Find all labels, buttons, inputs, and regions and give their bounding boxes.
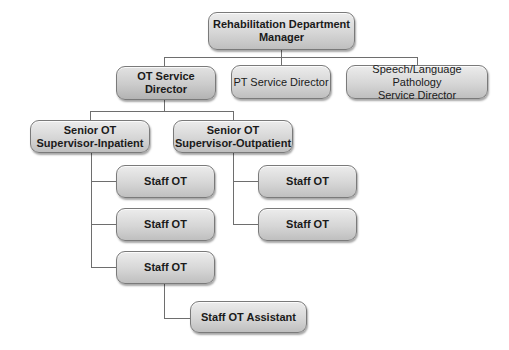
connector-outpatient-trunk bbox=[233, 153, 234, 225]
node-label: PT Service Director bbox=[233, 76, 328, 89]
node-staff-ot-inpatient-2: Staff OT bbox=[116, 208, 215, 241]
node-label: Staff OT bbox=[144, 175, 187, 188]
connector-to-staff-in-1 bbox=[91, 181, 116, 182]
node-rehab-manager: Rehabilitation Department Manager bbox=[208, 12, 355, 50]
node-staff-ot-inpatient-3: Staff OT bbox=[116, 251, 215, 284]
connector-to-staff-out-2 bbox=[233, 224, 258, 225]
connector-to-ot-director bbox=[164, 57, 165, 66]
node-label: Senior OT Supervisor-Inpatient bbox=[37, 124, 144, 150]
node-label: Staff OT bbox=[144, 218, 187, 231]
connector-supervisors-bus bbox=[90, 111, 234, 112]
connector-to-pt-director bbox=[281, 57, 282, 65]
connector-to-staff-in-3 bbox=[91, 267, 116, 268]
connector-to-staff-out-1 bbox=[233, 181, 258, 182]
connector-to-assistant bbox=[164, 318, 190, 319]
connector-inpatient-trunk bbox=[91, 153, 92, 268]
connector-to-senior-inpatient bbox=[90, 111, 91, 120]
node-staff-ot-assistant: Staff OT Assistant bbox=[190, 301, 307, 333]
node-label: Senior OT Supervisor-Outpatient bbox=[175, 124, 291, 150]
node-label: Rehabilitation Department Manager bbox=[213, 18, 350, 44]
node-label: Staff OT bbox=[286, 218, 329, 231]
node-senior-ot-supervisor-outpatient: Senior OT Supervisor-Outpatient bbox=[173, 120, 293, 153]
node-staff-ot-outpatient-1: Staff OT bbox=[258, 165, 357, 198]
node-slp-service-director: Speech/Language Pathology Service Direct… bbox=[346, 65, 488, 99]
node-label: Speech/Language Pathology Service Direct… bbox=[347, 63, 487, 102]
node-label: Staff OT bbox=[286, 175, 329, 188]
node-label: OT Service Director bbox=[137, 70, 194, 96]
connector-to-senior-outpatient bbox=[233, 111, 234, 120]
node-senior-ot-supervisor-inpatient: Senior OT Supervisor-Inpatient bbox=[30, 120, 150, 153]
connector-directors-bus bbox=[164, 57, 418, 58]
connector-to-staff-in-2 bbox=[91, 224, 116, 225]
node-staff-ot-inpatient-1: Staff OT bbox=[116, 165, 215, 198]
node-staff-ot-outpatient-2: Staff OT bbox=[258, 208, 357, 241]
node-label: Staff OT bbox=[144, 261, 187, 274]
node-ot-service-director: OT Service Director bbox=[116, 66, 216, 100]
connector-staff-in-3-down bbox=[164, 284, 165, 319]
node-label: Staff OT Assistant bbox=[201, 311, 296, 324]
node-pt-service-director: PT Service Director bbox=[231, 65, 331, 99]
